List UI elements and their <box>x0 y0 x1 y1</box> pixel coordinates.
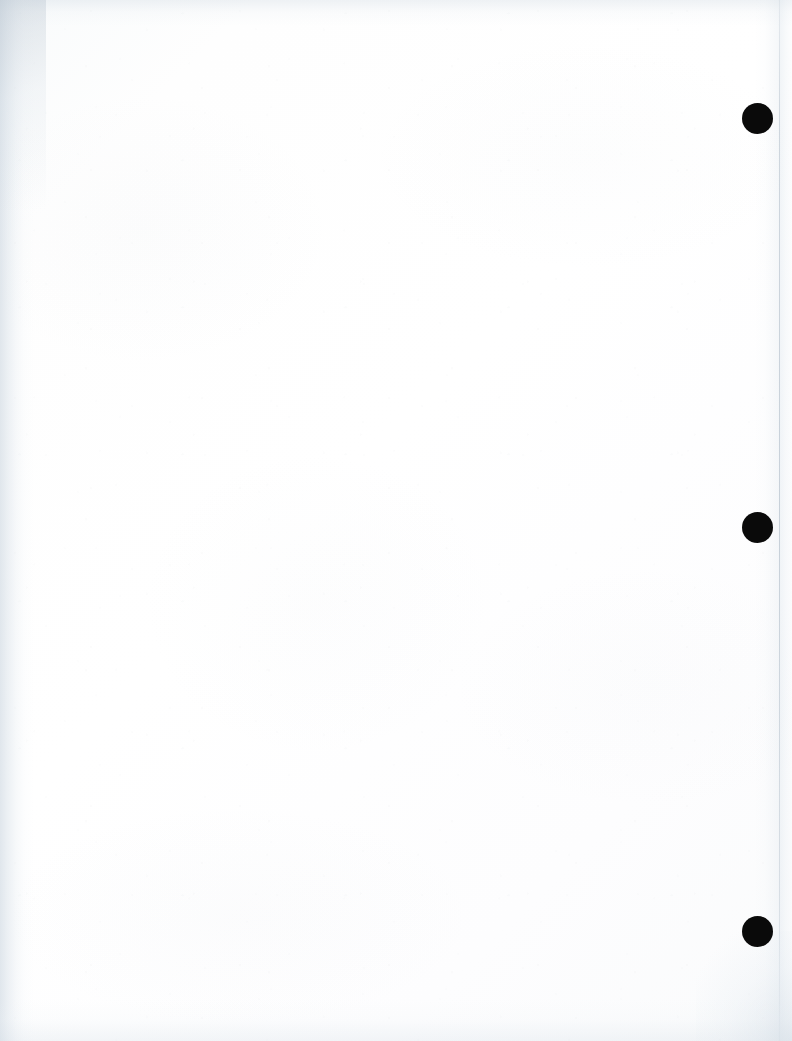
registration-dot-3 <box>742 916 773 947</box>
page-right-outer-area <box>780 0 792 1041</box>
top-edge-shadow <box>0 0 792 26</box>
scanned-page <box>0 0 792 1041</box>
bottom-right-corner-tint <box>696 931 792 1041</box>
top-left-corner-shadow <box>0 0 46 210</box>
registration-dot-1 <box>742 103 773 134</box>
page-content-area <box>60 70 700 970</box>
bottom-edge-shadow <box>0 999 792 1041</box>
registration-dot-2 <box>742 512 773 543</box>
